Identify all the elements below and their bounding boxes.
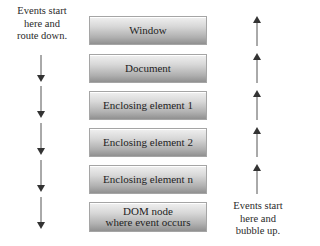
- down-arrow-icon: [37, 123, 45, 155]
- down-arrow-icon: [37, 197, 45, 229]
- up-arrow-icon: [253, 127, 261, 157]
- up-arrow-icon: [253, 164, 261, 194]
- down-arrow-icon: [37, 86, 45, 118]
- up-arrow-icon: [253, 53, 261, 83]
- up-arrow-icon: [253, 16, 261, 46]
- bubble-caption-line: Events start: [220, 200, 296, 213]
- down-arrow-icon: [37, 160, 45, 192]
- down-arrow-icon: [37, 55, 45, 82]
- bubble-caption: Events start here and bubble up.: [220, 200, 296, 238]
- bubble-caption-line: here and: [220, 213, 296, 226]
- up-arrow-icon: [253, 90, 261, 120]
- bubble-caption-line: bubble up.: [220, 225, 296, 238]
